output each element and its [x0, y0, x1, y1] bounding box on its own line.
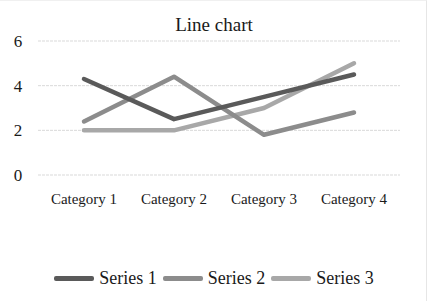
legend-label: Series 2 [208, 268, 266, 289]
plot-area: 0246Category 1Category 2Category 3Catego… [0, 0, 428, 302]
legend-swatch-icon [163, 276, 203, 281]
legend: Series 1Series 2Series 3 [0, 268, 428, 289]
legend-label: Series 3 [316, 268, 374, 289]
y-tick-label: 2 [14, 121, 23, 140]
legend-item-series-3: Series 3 [271, 268, 374, 289]
y-tick-label: 6 [14, 32, 23, 51]
x-tick-label: Category 2 [141, 191, 207, 207]
legend-item-series-2: Series 2 [163, 268, 266, 289]
legend-item-series-1: Series 1 [54, 268, 157, 289]
legend-swatch-icon [271, 276, 311, 281]
legend-label: Series 1 [99, 268, 157, 289]
x-tick-label: Category 1 [51, 191, 117, 207]
x-tick-label: Category 3 [231, 191, 297, 207]
x-tick-label: Category 4 [321, 191, 388, 207]
legend-swatch-icon [54, 276, 94, 281]
y-tick-label: 0 [14, 166, 23, 185]
y-tick-label: 4 [14, 77, 23, 96]
